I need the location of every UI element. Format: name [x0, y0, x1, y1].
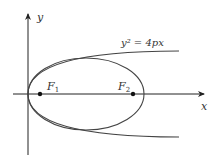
diagram-canvas: y x F1 F2 y² = 4px: [0, 0, 220, 162]
focus-f1-point: [38, 92, 42, 96]
y-axis-label: y: [36, 11, 44, 24]
parabola-equation-label: y² = 4px: [120, 37, 164, 48]
focus-f2-point: [131, 92, 135, 96]
x-axis-label: x: [201, 100, 208, 113]
focus-f1-label: F1: [46, 80, 59, 94]
focus-f2-label: F2: [117, 80, 130, 94]
